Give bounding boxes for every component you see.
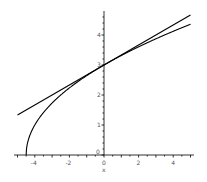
chart: -4-202412340 x <box>0 0 207 182</box>
x-tick-label: 4 <box>171 159 175 166</box>
y-tick-label: 4 <box>97 31 101 38</box>
x-axis-label: x <box>102 166 106 173</box>
x-tick-label: -4 <box>31 159 37 166</box>
origin-label: 0 <box>96 148 100 155</box>
y-tick-label: 2 <box>97 91 101 98</box>
y-tick-label: 1 <box>97 121 101 128</box>
x-tick-label: 0 <box>102 159 106 166</box>
x-tick-label: 2 <box>137 159 141 166</box>
curve-line <box>26 24 190 155</box>
x-tick-label: -2 <box>65 159 71 166</box>
